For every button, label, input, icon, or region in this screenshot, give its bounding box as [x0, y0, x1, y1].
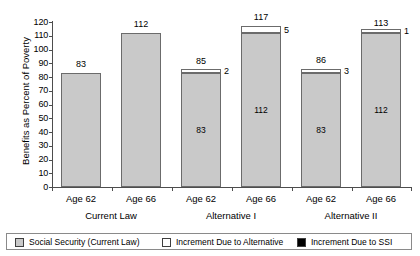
- y-axis-tick-label: 0: [22, 183, 48, 192]
- bar-segment-increment: [181, 69, 221, 73]
- bar-total-label: 86: [301, 56, 341, 65]
- bar-segment-social-security: 112: [361, 33, 401, 187]
- bar: 8386: [301, 69, 341, 187]
- bar-segment-social-security: [61, 73, 101, 187]
- x-axis-tick-mark: [411, 187, 412, 191]
- x-axis-tick-mark: [172, 187, 173, 191]
- bar-total-label: 113: [361, 19, 401, 28]
- x-axis-category-label: Age 66: [346, 194, 416, 204]
- bar-total-label: 112: [121, 20, 161, 29]
- bar-segment-social-security: 83: [301, 73, 341, 187]
- legend-item: Increment Due to Alternative: [162, 237, 283, 248]
- y-axis-tick-label: 70: [22, 86, 48, 95]
- y-axis-tick-label: 110: [22, 31, 48, 40]
- bar-total-label: 85: [181, 57, 221, 66]
- plot-area: 83112283855112117383861112113: [52, 22, 412, 187]
- bar-segment-social-security: 83: [181, 73, 221, 187]
- y-axis-tick-label: 10: [22, 169, 48, 178]
- x-axis-tick-mark: [292, 187, 293, 191]
- legend-swatch-icon: [15, 238, 24, 247]
- x-axis-tick-mark: [232, 187, 233, 191]
- bar-increment-label: 2: [224, 67, 229, 76]
- bar-segment-increment: [301, 69, 341, 73]
- chart-legend: Social Security (Current Law)Increment D…: [6, 233, 412, 250]
- bar-total-label: 83: [61, 60, 101, 69]
- bar-segment-value-label: 83: [182, 126, 220, 135]
- bar: 112117: [241, 26, 281, 187]
- x-axis-tick-mark: [52, 187, 53, 191]
- y-axis-tick-label: 90: [22, 59, 48, 68]
- x-axis-group-label: Current Law: [41, 211, 181, 221]
- legend-label: Increment Due to Alternative: [176, 238, 283, 247]
- bar: 83: [61, 73, 101, 187]
- bar-segment-increment: [361, 29, 401, 33]
- y-axis-tick-label: 30: [22, 141, 48, 150]
- y-axis-tick-label: 40: [22, 128, 48, 137]
- bar-segment-increment: [241, 26, 281, 33]
- legend-swatch-icon: [297, 238, 306, 247]
- bar-total-label: 117: [241, 13, 281, 22]
- y-axis-tick-label: 120: [22, 18, 48, 27]
- y-axis-tick-label: 50: [22, 114, 48, 123]
- bar: 112113: [361, 32, 401, 187]
- bar-segment-value-label: 83: [302, 126, 340, 135]
- x-axis-group-label: Alternative I: [161, 211, 301, 221]
- bar-segment-value-label: 112: [242, 106, 280, 115]
- bar-increment-label: 5: [284, 26, 289, 35]
- bar-segment-social-security: [121, 33, 161, 187]
- y-axis-tick-label: 100: [22, 45, 48, 54]
- legend-label: Social Security (Current Law): [29, 238, 140, 247]
- bar-chart: Benefits as Percent of Poverty 120110100…: [0, 0, 420, 256]
- x-axis-tick-mark: [352, 187, 353, 191]
- legend-item: Social Security (Current Law): [15, 237, 140, 248]
- bar-increment-label: 1: [404, 27, 409, 36]
- legend-label: Increment Due to SSI: [311, 238, 392, 247]
- bar: 8385: [181, 70, 221, 187]
- bar: 112: [121, 33, 161, 187]
- y-axis-tick-label: 80: [22, 73, 48, 82]
- y-axis-tick-label: 60: [22, 100, 48, 109]
- legend-item: Increment Due to SSI: [297, 237, 392, 248]
- bar-increment-label: 3: [344, 67, 349, 76]
- x-axis-tick-mark: [112, 187, 113, 191]
- legend-swatch-icon: [162, 238, 171, 247]
- bar-segment-value-label: 112: [362, 106, 400, 115]
- x-axis-group-label: Alternative II: [281, 211, 420, 221]
- y-axis-tick-label: 20: [22, 155, 48, 164]
- bar-segment-social-security: 112: [241, 33, 281, 187]
